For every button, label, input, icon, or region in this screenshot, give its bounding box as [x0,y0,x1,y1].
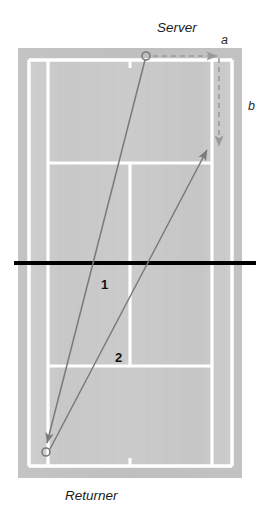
depth-displacement-label: b [248,99,255,113]
lateral-displacement-label: a [221,33,228,47]
path-two-label: 2 [115,350,122,365]
server-label: Server [157,20,197,35]
path-one-label: 1 [101,277,108,292]
returner-label: Returner [65,488,118,503]
tennis-court-serve-diagram: Server Returner a b 1 2 [0,0,271,509]
diagram-canvas: Server Returner a b 1 2 [0,0,271,509]
